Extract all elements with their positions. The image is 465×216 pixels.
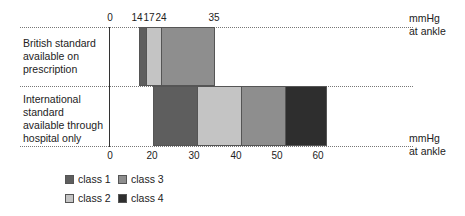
- bottom-tick: 20: [146, 150, 157, 161]
- row-label-international: International standard available through…: [23, 93, 108, 145]
- unit-label-bottom: mmHg at ankle: [409, 132, 446, 158]
- legend-item-class2: class 2: [65, 192, 111, 204]
- bar-international-class3: [241, 86, 286, 146]
- legend-swatch-icon: [65, 194, 74, 203]
- unit-bottom-line1: mmHg: [409, 132, 446, 145]
- row-divider-bottom: [20, 146, 413, 147]
- top-tick: 14: [131, 12, 142, 23]
- bar-international-class1: [153, 86, 198, 146]
- top-tick: 0: [107, 12, 113, 23]
- bottom-tick: 0: [107, 150, 113, 161]
- bottom-tick: 30: [188, 150, 199, 161]
- legend-label: class 1: [78, 173, 111, 185]
- bottom-tick: 60: [312, 150, 323, 161]
- legend-swatch-icon: [118, 194, 127, 203]
- bar-international-class2: [197, 86, 242, 146]
- legend-item-class1: class 1: [65, 173, 111, 185]
- legend-label: class 2: [78, 192, 111, 204]
- unit-top-line2: at ankle: [409, 25, 446, 38]
- top-tick: 35: [208, 12, 219, 23]
- legend-label: class 4: [131, 192, 164, 204]
- bar-british-class3: [161, 27, 215, 86]
- top-tick: 24: [155, 12, 166, 23]
- row-divider-top: [20, 27, 413, 28]
- bar-british-class2: [146, 27, 162, 86]
- row-label-british: British standard available on prescripti…: [23, 37, 108, 76]
- unit-label-top: mmHg at ankle: [409, 12, 446, 38]
- legend-swatch-icon: [118, 175, 127, 184]
- legend-item-class4: class 4: [118, 192, 164, 204]
- legend-label: class 3: [131, 173, 164, 185]
- unit-bottom-line2: at ankle: [409, 145, 446, 158]
- bottom-tick: 40: [230, 150, 241, 161]
- bar-international-class4: [285, 86, 327, 146]
- legend-swatch-icon: [65, 175, 74, 184]
- unit-top-line1: mmHg: [409, 12, 446, 25]
- zero-axis-line: [109, 27, 110, 147]
- bottom-tick: 50: [271, 150, 282, 161]
- legend-item-class3: class 3: [118, 173, 164, 185]
- top-tick: 17: [143, 12, 154, 23]
